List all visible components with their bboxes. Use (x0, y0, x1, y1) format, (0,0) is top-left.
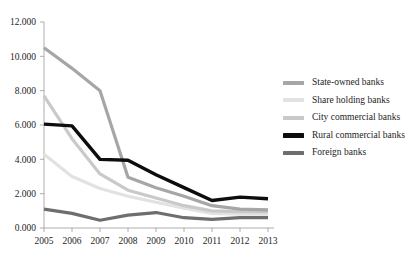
x-tick-label: 2009 (147, 236, 166, 246)
y-tick-label: 12.000 (10, 17, 36, 27)
series-line (44, 48, 268, 210)
legend-swatch-icon (283, 133, 304, 138)
y-tick-label: 0.000 (15, 223, 37, 233)
legend-swatch-icon (283, 151, 304, 155)
series-line (44, 96, 268, 212)
y-tick-label: 8.000 (15, 86, 37, 96)
x-tick-label: 2005 (35, 236, 54, 246)
x-tick-label: 2007 (91, 236, 110, 246)
legend-item[interactable]: Foreign banks (283, 144, 416, 162)
line-chart: 0.0002.0004.0006.0008.00010.00012.000 20… (0, 0, 416, 254)
legend-swatch-icon (283, 81, 304, 85)
legend-item[interactable]: State-owned banks (283, 74, 416, 92)
series-line (44, 154, 268, 214)
legend-item[interactable]: Rural commercial banks (283, 127, 416, 145)
y-tick-label: 2.000 (15, 189, 37, 199)
x-tick-label: 2008 (119, 236, 138, 246)
x-axis-ticks (44, 228, 268, 232)
legend-item-label: Foreign banks (312, 148, 366, 158)
legend-swatch-icon (283, 98, 304, 102)
legend-item-label: State-owned banks (312, 78, 384, 88)
y-tick-label: 10.000 (10, 52, 36, 62)
plot-svg: 0.0002.0004.0006.0008.00010.00012.000 20… (0, 0, 285, 254)
legend-item-label: Share holding banks (312, 96, 390, 106)
y-tick-label: 4.000 (15, 155, 37, 165)
y-tick-label: 6.000 (15, 120, 37, 130)
legend-item-label: Rural commercial banks (312, 131, 405, 141)
y-axis-ticks (40, 22, 44, 228)
data-series-group (44, 48, 268, 221)
plot-area: 0.0002.0004.0006.0008.00010.00012.000 20… (0, 0, 285, 254)
legend-item[interactable]: Share holding banks (283, 92, 416, 110)
legend-item[interactable]: City commercial banks (283, 109, 416, 127)
x-tick-label: 2006 (63, 236, 82, 246)
y-axis-labels: 0.0002.0004.0006.0008.00010.00012.000 (10, 17, 36, 233)
legend-item-label: City commercial banks (312, 113, 400, 123)
chart-legend: State-owned banksShare holding banksCity… (283, 74, 416, 162)
x-tick-label: 2013 (259, 236, 278, 246)
x-tick-label: 2012 (231, 236, 250, 246)
x-axis-labels: 200520062007200820092010201120122013 (35, 236, 278, 246)
legend-swatch-icon (283, 116, 304, 120)
x-tick-label: 2011 (203, 236, 222, 246)
x-tick-label: 2010 (175, 236, 194, 246)
